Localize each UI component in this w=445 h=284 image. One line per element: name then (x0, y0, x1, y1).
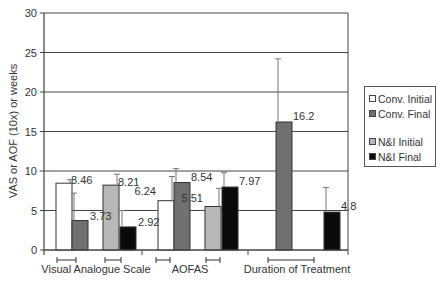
data-label: 3.73 (90, 210, 111, 222)
y-tick-label: 5 (31, 205, 37, 217)
legend: Conv. Initial Conv. Final N&I Initial N&… (364, 86, 436, 167)
legend-swatch-ni-initial (369, 138, 376, 145)
y-axis: 051015202530 (25, 7, 44, 256)
bar (72, 221, 88, 250)
legend-item-conv-initial: Conv. Initial (369, 91, 432, 106)
legend-label: N&I Initial (378, 136, 423, 148)
bar (158, 201, 174, 250)
legend-swatch-conv-final (369, 110, 376, 117)
bars (56, 122, 340, 250)
data-label: 8.54 (191, 171, 212, 183)
bar (222, 187, 238, 250)
legend-label: Conv. Final (378, 108, 430, 120)
data-label: 7.97 (239, 175, 260, 187)
legend-swatch-ni-final (369, 153, 376, 160)
y-tick-label: 25 (25, 47, 37, 59)
legend-item-ni-final: N&I Final (369, 149, 432, 164)
legend-item-conv-final: Conv. Final (369, 106, 432, 121)
legend-swatch-conv-initial (369, 95, 376, 102)
data-label: 16.2 (293, 110, 314, 122)
data-label: 5.51 (182, 192, 203, 204)
bar (324, 212, 340, 250)
bar (120, 227, 136, 250)
data-label: 8.21 (118, 176, 139, 188)
y-tick-label: 15 (25, 126, 37, 138)
data-label: 2.92 (138, 216, 159, 228)
category-label: Duration of Treatment (244, 263, 350, 275)
y-tick-label: 0 (31, 244, 37, 256)
category-label: AOFAS (172, 263, 209, 275)
y-tick-label: 20 (25, 86, 37, 98)
legend-item-ni-initial: N&I Initial (369, 134, 432, 149)
data-label: 4.8 (341, 200, 356, 212)
bar (205, 206, 221, 250)
y-tick-label: 30 (25, 7, 37, 19)
category-label: Visual Analogue Scale (41, 263, 150, 275)
legend-label: N&I Final (378, 151, 421, 163)
legend-label: Conv. Initial (378, 93, 432, 105)
bar (56, 183, 72, 250)
bar (276, 122, 292, 250)
y-tick-label: 10 (25, 165, 37, 177)
y-axis-label: VAS or AOF (10x) or weeks (7, 63, 19, 198)
data-label: 8.46 (71, 174, 92, 186)
